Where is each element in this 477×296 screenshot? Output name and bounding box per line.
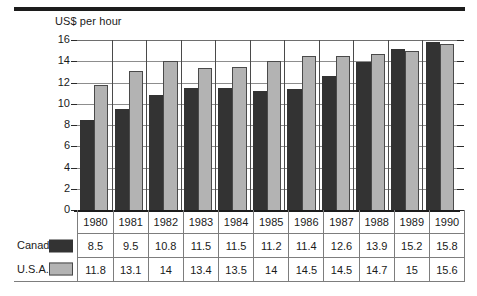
bar-usa-1983: [198, 68, 212, 210]
group-separator-1981: [112, 40, 113, 210]
table-corner-cell: [14, 210, 78, 234]
data-table-wrapper: 1980198119821983198419851986198719881989…: [14, 210, 465, 281]
table-cell-canada-1981: 9.5: [113, 234, 148, 258]
table-header-year-1981: 1981: [113, 210, 148, 234]
table-row: U.S.A. 11.813.11413.413.51414.514.514.71…: [14, 258, 465, 282]
legend-row-usa: U.S.A.: [14, 258, 78, 282]
table-header-year-1983: 1983: [183, 210, 218, 234]
group-separator-1985: [250, 40, 251, 210]
plot-area: [77, 40, 457, 210]
bar-canada-1981: [115, 109, 129, 210]
y-tick-mark-10: [71, 104, 77, 105]
y-tick-label-14: 14: [40, 54, 70, 66]
bar-usa-1985: [267, 61, 281, 210]
y-tick-mark-8: [71, 125, 77, 126]
bar-canada-1988: [356, 62, 370, 210]
bar-canada-1980: [80, 120, 94, 210]
y-tick-mark-right-16: [457, 40, 464, 41]
table-cell-canada-1980: 8.5: [78, 234, 113, 258]
table-cell-canada-1984: 11.5: [219, 234, 254, 258]
gridline-16: [77, 40, 457, 41]
top-divider-rule: [14, 7, 465, 11]
group-separator-1988: [353, 40, 354, 210]
bar-canada-1989: [391, 49, 405, 211]
group-separator-1982: [146, 40, 147, 210]
bar-canada-1986: [287, 89, 301, 210]
group-separator-1989: [388, 40, 389, 210]
table-cell-canada-1983: 11.5: [183, 234, 218, 258]
y-tick-mark-right-10: [457, 104, 464, 105]
table-cell-canada-1988: 13.9: [359, 234, 394, 258]
table-cell-usa-1983: 13.4: [183, 258, 218, 282]
table-cell-usa-1987: 14.5: [324, 258, 359, 282]
y-axis-title: US$ per hour: [55, 15, 122, 27]
table-header-year-1987: 1987: [324, 210, 359, 234]
table-header-year-1988: 1988: [359, 210, 394, 234]
y-tick-label-16: 16: [40, 33, 70, 45]
y-tick-mark-16: [71, 40, 77, 41]
bar-canada-1982: [149, 95, 163, 210]
table-cell-usa-1980: 11.8: [78, 258, 113, 282]
table-header-year-1982: 1982: [148, 210, 183, 234]
table-header-year-1989: 1989: [394, 210, 429, 234]
y-tick-mark-2: [71, 189, 77, 190]
table-cell-canada-1982: 10.8: [148, 234, 183, 258]
table-cell-canada-1986: 11.4: [289, 234, 324, 258]
y-tick-label-8: 8: [40, 118, 70, 130]
bar-canada-1987: [322, 76, 336, 210]
table-cell-canada-1987: 12.6: [324, 234, 359, 258]
legend-label-usa: U.S.A.: [17, 258, 49, 281]
table-cell-canada-1985: 11.2: [254, 234, 289, 258]
bar-usa-1984: [232, 67, 246, 210]
bar-usa-1989: [405, 51, 419, 210]
bar-usa-1986: [302, 56, 316, 210]
bar-usa-1980: [94, 85, 108, 210]
group-separator-1983: [181, 40, 182, 210]
bar-usa-1988: [371, 54, 385, 210]
bar-usa-1987: [336, 56, 350, 210]
table-cell-usa-1984: 13.5: [219, 258, 254, 282]
y-tick-mark-right-6: [457, 146, 464, 147]
table-header-year-1990: 1990: [429, 210, 464, 234]
legend-swatch-usa: [49, 263, 73, 276]
y-tick-label-12: 12: [40, 76, 70, 88]
table-cell-canada-1989: 15.2: [394, 234, 429, 258]
table-cell-usa-1985: 14: [254, 258, 289, 282]
table-row-years: 1980198119821983198419851986198719881989…: [14, 210, 465, 234]
group-separator-1986: [284, 40, 285, 210]
table-cell-usa-1989: 15: [394, 258, 429, 282]
legend-swatch-canada: [49, 239, 73, 252]
table-header-year-1980: 1980: [78, 210, 113, 234]
table-header-year-1986: 1986: [289, 210, 324, 234]
table-cell-canada-1990: 15.8: [429, 234, 464, 258]
table-cell-usa-1981: 13.1: [113, 258, 148, 282]
y-tick-label-4: 4: [40, 161, 70, 173]
y-tick-mark-right-8: [457, 125, 464, 126]
group-separator-1984: [215, 40, 216, 210]
bar-canada-1984: [218, 88, 232, 210]
y-tick-label-2: 2: [40, 182, 70, 194]
y-tick-mark-6: [71, 146, 77, 147]
bar-usa-1990: [440, 44, 454, 210]
y-tick-mark-right-4: [457, 168, 464, 169]
bar-canada-1983: [184, 88, 198, 210]
table-cell-usa-1982: 14: [148, 258, 183, 282]
table-cell-usa-1986: 14.5: [289, 258, 324, 282]
group-separator-1987: [319, 40, 320, 210]
y-axis-labels: 0246810121416: [38, 40, 70, 210]
table-cell-usa-1990: 15.6: [429, 258, 464, 282]
y-tick-mark-4: [71, 168, 77, 169]
bar-canada-1990: [426, 42, 440, 210]
bar-canada-1985: [253, 91, 267, 210]
table-header-year-1985: 1985: [254, 210, 289, 234]
table-row: Canada 8.59.510.811.511.511.211.412.613.…: [14, 234, 465, 258]
table-cell-usa-1988: 14.7: [359, 258, 394, 282]
y-tick-mark-14: [71, 61, 77, 62]
y-tick-mark-right-2: [457, 189, 464, 190]
y-tick-mark-12: [71, 83, 77, 84]
bar-usa-1981: [129, 71, 143, 210]
group-separator-1990: [422, 40, 423, 210]
y-tick-label-10: 10: [40, 97, 70, 109]
data-table: 1980198119821983198419851986198719881989…: [14, 210, 465, 282]
legend-row-canada: Canada: [14, 234, 78, 258]
